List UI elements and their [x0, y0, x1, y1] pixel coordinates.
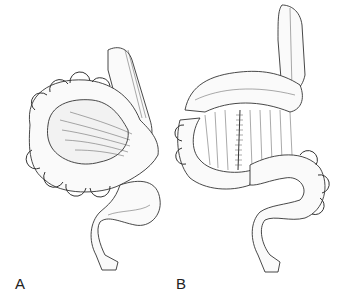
panel-label-b: B	[176, 276, 186, 291]
illustration-drawing	[0, 0, 346, 297]
panel-b-colon-illustration	[175, 5, 329, 272]
panel-a-colon-illustration	[26, 48, 160, 270]
anatomical-figure: A B	[0, 0, 346, 297]
panel-label-a: A	[15, 276, 25, 291]
suture-line	[235, 110, 243, 170]
